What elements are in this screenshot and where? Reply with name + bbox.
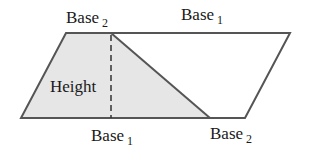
label-bottom-base1: Base1	[91, 126, 133, 148]
shaded-trapezoid	[21, 33, 210, 118]
label-top-base1: Base1	[181, 5, 223, 27]
label-height: Height	[50, 77, 97, 96]
label-top-base2: Base2	[66, 8, 108, 30]
trapezoid-diagram: Base2 Base1 Height Base1 Base2	[0, 0, 311, 165]
label-bottom-base2: Base2	[210, 124, 252, 146]
